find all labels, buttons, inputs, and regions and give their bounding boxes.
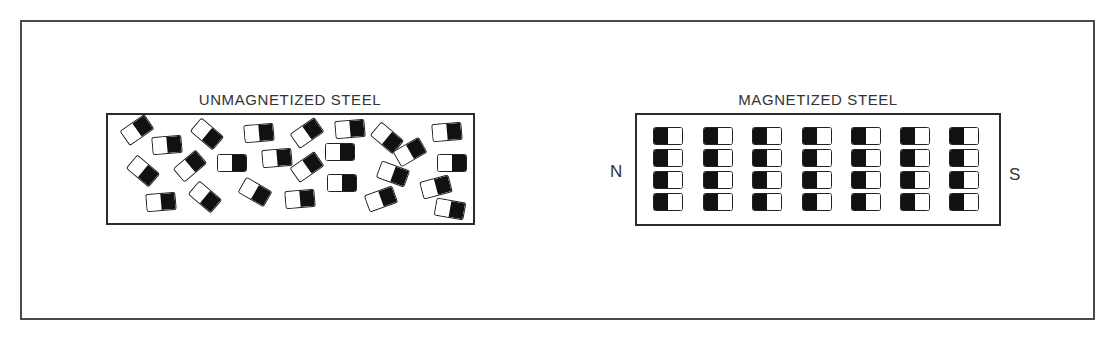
magnetic-domain	[900, 149, 930, 167]
north-half	[704, 172, 718, 188]
north-half	[704, 128, 718, 144]
north-half	[753, 150, 767, 166]
magnetic-domain	[703, 127, 733, 145]
north-half	[950, 150, 964, 166]
north-half	[950, 172, 964, 188]
south-pole-label: S	[1009, 165, 1020, 185]
magnetic-domain	[752, 171, 782, 189]
south-half	[767, 172, 781, 188]
north-half	[852, 128, 866, 144]
north-half	[349, 120, 364, 137]
north-half	[160, 193, 175, 210]
north-half	[852, 150, 866, 166]
north-half	[232, 155, 246, 171]
south-half	[866, 172, 880, 188]
magnetic-domain	[802, 193, 832, 211]
south-half	[817, 150, 831, 166]
magnetic-domain	[703, 171, 733, 189]
magnetic-domain	[145, 192, 176, 213]
unmagnetized-steel-title: UNMAGNETIZED STEEL	[106, 91, 474, 108]
magnetic-domain	[327, 174, 357, 192]
south-half	[438, 155, 452, 171]
south-half	[767, 150, 781, 166]
south-half	[915, 128, 929, 144]
magnetic-domain	[261, 148, 292, 169]
south-half	[146, 194, 161, 211]
magnetic-domain	[243, 123, 274, 144]
north-half	[434, 176, 452, 195]
north-half	[753, 194, 767, 210]
magnetic-domain	[949, 149, 979, 167]
magnetized-steel-title: MAGNETIZED STEEL	[635, 91, 1001, 108]
magnetic-domain	[802, 127, 832, 145]
north-half	[753, 128, 767, 144]
south-half	[718, 194, 732, 210]
magnetic-domain	[802, 171, 832, 189]
north-half	[901, 194, 915, 210]
magnetic-domain	[284, 189, 315, 210]
north-half	[950, 194, 964, 210]
north-half	[446, 123, 461, 140]
south-half	[718, 128, 732, 144]
north-pole-label: N	[610, 162, 622, 182]
magnetic-domain	[151, 135, 182, 156]
south-half	[866, 150, 880, 166]
north-half	[803, 128, 817, 144]
south-half	[718, 150, 732, 166]
north-half	[950, 128, 964, 144]
south-half	[964, 172, 978, 188]
north-half	[654, 128, 668, 144]
south-half	[328, 175, 342, 191]
south-half	[668, 150, 682, 166]
south-half	[152, 137, 167, 154]
magnetic-domain	[949, 171, 979, 189]
magnetic-domain	[653, 149, 683, 167]
north-half	[803, 150, 817, 166]
magnetic-domain	[900, 171, 930, 189]
magnetic-domain	[949, 193, 979, 211]
south-half	[915, 150, 929, 166]
north-half	[803, 194, 817, 210]
magnetic-domain	[900, 127, 930, 145]
north-half	[654, 150, 668, 166]
north-half	[342, 175, 356, 191]
magnetic-domain	[653, 127, 683, 145]
south-half	[432, 124, 447, 141]
magnetic-domain	[325, 143, 355, 161]
south-half	[668, 172, 682, 188]
north-half	[258, 124, 273, 141]
north-half	[166, 136, 181, 153]
south-half	[767, 128, 781, 144]
north-half	[901, 128, 915, 144]
magnetic-domain	[334, 119, 365, 140]
south-half	[964, 194, 978, 210]
magnetic-domain	[851, 193, 881, 211]
south-half	[218, 155, 232, 171]
magnetic-domain	[752, 193, 782, 211]
south-half	[767, 194, 781, 210]
north-half	[654, 172, 668, 188]
magnetic-domain	[851, 171, 881, 189]
magnetic-domain	[431, 122, 462, 143]
south-half	[964, 128, 978, 144]
north-half	[753, 172, 767, 188]
south-half	[326, 144, 340, 160]
south-half	[668, 194, 682, 210]
south-half	[285, 191, 300, 208]
magnetic-domain	[752, 149, 782, 167]
north-half	[449, 201, 466, 219]
south-half	[335, 121, 350, 138]
magnetic-domain	[703, 149, 733, 167]
north-half	[654, 194, 668, 210]
south-half	[244, 125, 259, 142]
north-half	[276, 149, 291, 166]
north-half	[704, 150, 718, 166]
north-half	[803, 172, 817, 188]
south-half	[964, 150, 978, 166]
north-half	[704, 194, 718, 210]
magnetic-domain	[802, 149, 832, 167]
magnetic-domain	[949, 127, 979, 145]
north-half	[901, 150, 915, 166]
south-half	[866, 128, 880, 144]
south-half	[262, 150, 277, 167]
